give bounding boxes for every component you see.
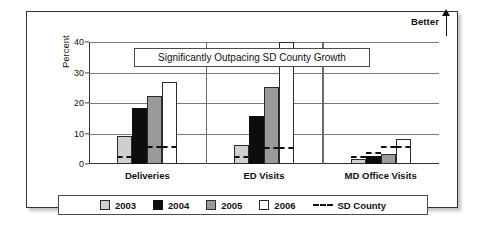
- legend-swatch-icon: [153, 200, 163, 210]
- sd-county-benchmark-segment: [279, 147, 294, 149]
- sd-county-benchmark-segment: [396, 146, 411, 148]
- dashed-line-icon: [313, 204, 333, 206]
- bar-2005-md-office-visits: [381, 154, 396, 164]
- sd-county-benchmark-segment: [234, 156, 249, 158]
- bar-2006-md-office-visits: [396, 139, 411, 164]
- y-tick-label: 40: [74, 38, 84, 47]
- y-tick-label: 10: [74, 129, 84, 138]
- legend-label: SD County: [338, 200, 387, 211]
- callout-box: Significantly Outpacing SD County Growth: [134, 48, 370, 67]
- legend-item-2005[interactable]: 2005: [206, 200, 242, 211]
- bar-2003-ed-visits: [234, 145, 249, 164]
- bar-2003-md-office-visits: [351, 159, 366, 164]
- sd-county-benchmark-segment: [117, 156, 132, 158]
- legend-label: 2006: [274, 200, 295, 211]
- bar-2005-deliveries: [147, 96, 162, 164]
- sd-county-benchmark-segment: [264, 147, 279, 149]
- better-label: Better: [411, 17, 439, 27]
- legend-swatch-icon: [100, 200, 110, 210]
- sd-county-benchmark-segment: [351, 156, 366, 158]
- bar-2004-ed-visits: [249, 116, 264, 164]
- legend-item-sd-county[interactable]: SD County: [313, 200, 387, 211]
- bar-2006-deliveries: [162, 82, 177, 164]
- y-tick-label: 30: [74, 68, 84, 77]
- legend-label: 2003: [115, 200, 136, 211]
- y-axis-label: Percent: [60, 35, 71, 68]
- legend-item-2006[interactable]: 2006: [259, 200, 295, 211]
- better-annotation: Better: [411, 14, 451, 30]
- bar-2003-deliveries: [117, 136, 132, 164]
- sd-county-benchmark-segment: [132, 152, 147, 154]
- category-label: MD Office Visits: [322, 170, 439, 181]
- bar-2004-md-office-visits: [366, 156, 381, 164]
- chart-legend: 2003200420052006SD County: [58, 195, 428, 215]
- arrow-up-icon: [442, 9, 451, 36]
- sd-county-benchmark-segment: [366, 152, 381, 154]
- category-label: Deliveries: [89, 170, 206, 181]
- category-label: ED Visits: [206, 170, 323, 181]
- y-tick-label: 0: [79, 160, 84, 169]
- legend-label: 2004: [168, 200, 189, 211]
- legend-swatch-icon: [259, 200, 269, 210]
- bar-2004-deliveries: [132, 108, 147, 164]
- sd-county-benchmark-segment: [147, 146, 162, 148]
- legend-label: 2005: [221, 200, 242, 211]
- chart-figure-card: Better Percent 010203040 DeliveriesED Vi…: [26, 11, 458, 208]
- legend-item-2004[interactable]: 2004: [153, 200, 189, 211]
- y-tick-label: 20: [74, 99, 84, 108]
- legend-item-2003[interactable]: 2003: [100, 200, 136, 211]
- sd-county-benchmark-segment: [381, 146, 396, 148]
- sd-county-benchmark-segment: [249, 151, 264, 153]
- bar-2005-ed-visits: [264, 87, 279, 164]
- sd-county-benchmark-segment: [162, 146, 177, 148]
- legend-swatch-icon: [206, 200, 216, 210]
